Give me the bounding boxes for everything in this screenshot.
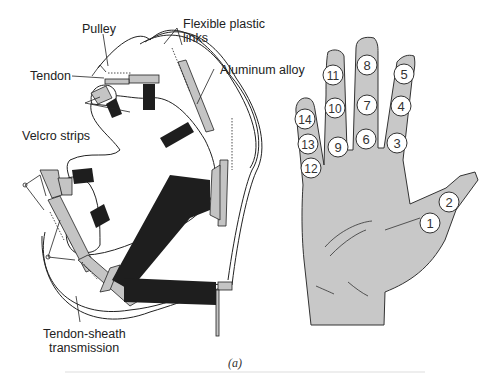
svg-text:1: 1 (426, 216, 433, 231)
joint-12: 12 (301, 158, 321, 178)
faint-divider (65, 371, 425, 373)
svg-text:5: 5 (400, 67, 407, 82)
aluminum-rod (216, 290, 219, 336)
svg-text:2: 2 (445, 195, 452, 210)
svg-text:10: 10 (328, 102, 342, 116)
joint-11: 11 (323, 65, 343, 85)
joint-6: 6 (356, 129, 376, 149)
joint-9: 9 (328, 137, 348, 157)
svg-text:4: 4 (397, 99, 404, 114)
joint-13: 13 (298, 134, 318, 154)
aluminum-leader (197, 69, 214, 104)
aluminum-link (105, 79, 129, 84)
aluminum-link (210, 165, 220, 220)
tendon-leader (72, 76, 104, 78)
svg-text:13: 13 (301, 138, 315, 152)
connector (218, 282, 232, 290)
label-tendon-sheath-line1: Tendon-sheath (43, 327, 126, 341)
svg-text:11: 11 (327, 69, 340, 83)
joint-7: 7 (357, 95, 377, 115)
velcro-strap (124, 278, 216, 305)
label-tendon: Tendon (30, 69, 71, 83)
exoskeleton-diagram: 1 2 3 4 5 6 7 8 9 10 11 12 13 14 (0, 0, 493, 378)
joint-2: 2 (439, 192, 459, 212)
hand-joint-panel: 1 2 3 4 5 6 7 8 9 10 11 12 13 14 (295, 37, 478, 325)
svg-text:14: 14 (298, 113, 312, 127)
joint-8: 8 (357, 55, 377, 75)
joint-10: 10 (325, 98, 345, 118)
label-velcro-strips: Velcro strips (22, 129, 90, 143)
svg-text:7: 7 (363, 98, 370, 113)
label-pulley: Pulley (82, 22, 116, 36)
hand-silhouette (296, 37, 478, 325)
figure-caption: (a) (228, 356, 242, 371)
velcro-strap (72, 168, 94, 184)
label-tendon-sheath-line2: transmission (49, 341, 119, 355)
label-flexible-links-line2: links (183, 31, 208, 45)
label-flexible-links-line1: Flexible plastic (183, 17, 265, 31)
joint-3: 3 (387, 133, 407, 153)
joint-14: 14 (295, 109, 315, 129)
svg-text:12: 12 (304, 162, 318, 176)
svg-text:9: 9 (334, 140, 341, 155)
aluminum-link (40, 170, 62, 198)
joint-4: 4 (391, 96, 411, 116)
svg-text:3: 3 (393, 136, 400, 151)
velcro-strap (143, 84, 155, 110)
joint-1: 1 (420, 213, 440, 233)
label-aluminum-alloy: Aluminum alloy (220, 63, 305, 77)
joint-5: 5 (394, 64, 414, 84)
aluminum-link (129, 75, 159, 83)
svg-text:8: 8 (363, 58, 370, 73)
svg-text:6: 6 (362, 132, 369, 147)
